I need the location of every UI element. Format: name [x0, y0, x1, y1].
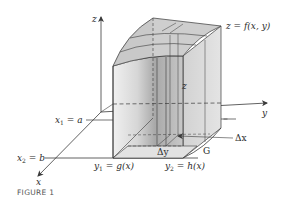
- y1-label: y1 = g(x): [93, 161, 135, 172]
- delta-x-label: Δx: [235, 133, 247, 143]
- iterated-integral-diagram: z y x z = f(x, y) z x1 = a x2 = b y1 = g…: [0, 0, 284, 197]
- y-axis-label: y: [261, 108, 268, 118]
- x2-rhs: = b: [26, 153, 45, 163]
- x1-label: x1 = a: [55, 115, 83, 126]
- surface-label: z = f(x, y): [225, 21, 271, 31]
- y2-rhs: = h(x): [174, 161, 206, 171]
- figure-caption: FIGURE 1: [17, 188, 54, 197]
- base-slab: [113, 146, 197, 158]
- x2-label: x2 = b: [17, 153, 45, 164]
- surface-eq: z = f(x, y): [225, 21, 271, 31]
- region-g-label: G: [203, 146, 210, 156]
- y1-rhs: = g(x): [103, 161, 135, 171]
- front-face: [113, 56, 183, 158]
- height-label: z: [181, 81, 187, 91]
- delta-y-label: Δy: [157, 147, 169, 157]
- x-axis-label: x: [36, 177, 41, 187]
- y2-label: y2 = h(x): [164, 161, 206, 172]
- x1-rhs: = a: [64, 115, 83, 125]
- z-axis-label: z: [91, 14, 97, 24]
